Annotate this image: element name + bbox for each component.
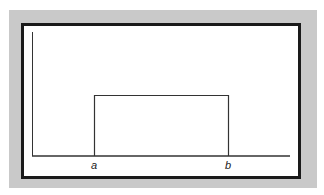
tick-label-a: a bbox=[91, 159, 97, 171]
uniform-distribution-plot: a b bbox=[0, 0, 324, 195]
density-rectangle bbox=[95, 96, 229, 157]
tick-label-b: b bbox=[225, 159, 231, 171]
